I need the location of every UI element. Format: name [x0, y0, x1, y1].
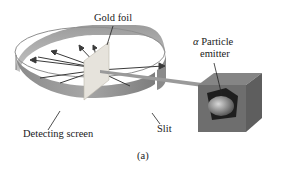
label-detecting-screen: Detecting screen [23, 128, 93, 140]
label-particle: Particle [201, 36, 233, 47]
label-emitter: emitter [200, 48, 230, 60]
alpha-symbol: α [193, 36, 199, 47]
label-gold-foil: Gold foil [94, 12, 132, 24]
label-alpha-particle: α Particle [193, 36, 233, 48]
figure-caption: (a) [137, 150, 149, 162]
label-slit: Slit [157, 123, 172, 135]
alpha-particle-emitter [198, 63, 262, 132]
